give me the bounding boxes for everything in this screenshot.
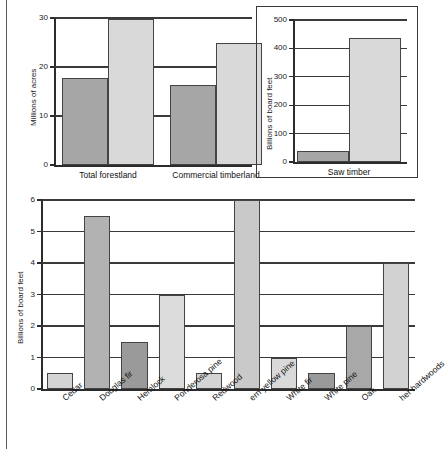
forestland-chart: Millions of acres 0102030 Total forestla… [22,8,252,183]
bar [62,78,108,165]
gridline [41,199,415,200]
y-tick-label: 100 [259,130,287,138]
y-tick [50,17,55,18]
y-tick [50,164,55,165]
bar [170,85,216,165]
y-tick-label: 200 [259,101,287,109]
y-tick-label: 500 [259,16,287,24]
y-tick-label: 300 [259,73,287,81]
y-tick [50,66,55,67]
saw-timber-y-axis [293,20,295,163]
bar [159,295,185,390]
category-label: Saw timber [287,168,411,177]
y-tick [37,294,42,295]
y-tick-label: 3 [15,291,35,299]
y-tick-label: 1 [15,354,35,362]
species-y-axis-label: Billions of board feet [17,272,25,345]
gridline [54,17,252,18]
saw-timber-x-axis [293,162,407,164]
bar [383,263,409,389]
y-tick-label: 30 [24,14,48,22]
bar [349,38,401,162]
y-tick-label: 20 [24,63,48,71]
page-margin-rule [6,0,7,449]
y-tick [289,161,294,162]
y-tick [50,115,55,116]
y-tick-label: 4 [15,259,35,267]
y-tick [37,357,42,358]
y-tick-label: 400 [259,44,287,52]
y-tick [37,388,42,389]
y-tick-label: 2 [15,322,35,330]
y-tick [289,76,294,77]
forestland-x-axis [54,165,252,167]
y-tick [37,262,42,263]
y-tick-label: 0 [24,161,48,169]
y-tick [289,105,294,106]
y-tick-label: 0 [259,158,287,166]
gridline [293,19,407,20]
y-tick [37,231,42,232]
forestland-y-axis [54,18,56,166]
y-tick [37,199,42,200]
bar [297,151,349,162]
y-tick [289,48,294,49]
saw-timber-chart: Billions of board feet 0100200300400500 … [256,6,418,184]
bar [234,200,260,389]
y-tick-label: 5 [15,228,35,236]
bar [84,216,110,389]
y-tick [289,133,294,134]
saw-timber-y-axis-label: Billions of board feet [266,78,274,151]
bar [108,19,154,165]
y-tick-label: 0 [15,385,35,393]
species-chart: Billions of board feet 0123456 CedarDoug… [10,192,419,449]
y-tick-label: 10 [24,112,48,120]
y-tick [289,19,294,20]
y-tick-label: 6 [15,196,35,204]
y-tick [37,325,42,326]
